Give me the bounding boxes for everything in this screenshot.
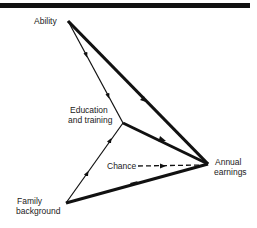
edge-education-earnings xyxy=(123,123,208,164)
node-earnings-line1: Annual xyxy=(215,157,241,167)
edge-family-earnings xyxy=(66,164,208,203)
node-education-line2: and training xyxy=(68,115,112,125)
node-family-line1: Family xyxy=(17,196,42,206)
node-earnings-line2: earnings xyxy=(214,167,247,177)
node-chance: Chance xyxy=(107,161,136,171)
node-education-line1: Education xyxy=(70,105,108,115)
edge-ability-earnings xyxy=(68,21,208,164)
node-ability: Ability xyxy=(34,16,57,26)
path-diagram xyxy=(0,0,257,228)
node-family-line2: background xyxy=(16,206,60,216)
